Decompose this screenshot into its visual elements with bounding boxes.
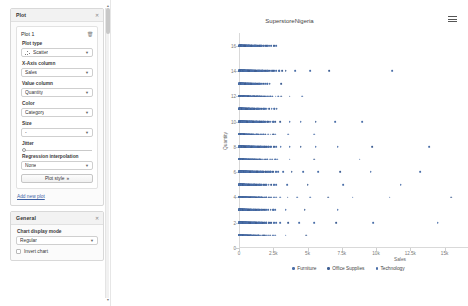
- value-column-select[interactable]: Quantity ▼: [21, 88, 93, 97]
- scatter-point[interactable]: [274, 121, 276, 123]
- scatter-point[interactable]: [337, 146, 339, 148]
- scatter-point[interactable]: [251, 184, 253, 186]
- scatter-point[interactable]: [314, 222, 316, 224]
- plot-panel-header[interactable]: Plot ✕: [11, 9, 103, 22]
- scatter-point[interactable]: [251, 171, 253, 173]
- scatter-point[interactable]: [244, 95, 246, 97]
- plot-canvas[interactable]: 02.5k5k7.5k10k12.5k15k17.5k20k22.5k02468…: [239, 33, 468, 248]
- scatter-point[interactable]: [270, 45, 272, 47]
- scatter-point[interactable]: [289, 121, 291, 123]
- scatter-point[interactable]: [261, 197, 263, 199]
- scatter-point[interactable]: [327, 197, 329, 199]
- scatter-point[interactable]: [280, 95, 282, 97]
- scatter-point[interactable]: [257, 171, 259, 173]
- sidebar-scrollbar[interactable]: ▲ ▼: [105, 8, 109, 298]
- scatter-point[interactable]: [287, 222, 289, 224]
- scatter-point[interactable]: [246, 146, 248, 148]
- scatter-point[interactable]: [270, 171, 272, 173]
- scatter-point[interactable]: [265, 222, 267, 224]
- scatter-point[interactable]: [275, 197, 277, 199]
- scatter-point[interactable]: [273, 197, 275, 199]
- scatter-point[interactable]: [253, 146, 255, 148]
- scatter-point[interactable]: [268, 108, 270, 110]
- size-select[interactable]: - ▼: [21, 128, 93, 137]
- scatter-point[interactable]: [291, 171, 293, 173]
- scatter-point[interactable]: [296, 197, 298, 199]
- scatter-point[interactable]: [243, 184, 245, 186]
- scatter-point[interactable]: [248, 184, 250, 186]
- scatter-point[interactable]: [263, 222, 265, 224]
- scatter-point[interactable]: [251, 197, 253, 199]
- scatter-point[interactable]: [275, 70, 277, 72]
- scatter-point[interactable]: [261, 146, 263, 148]
- scatter-point[interactable]: [256, 184, 258, 186]
- scatter-point[interactable]: [263, 146, 265, 148]
- scatter-point[interactable]: [246, 197, 248, 199]
- scatter-point[interactable]: [248, 146, 250, 148]
- jitter-slider-knob[interactable]: [22, 148, 26, 152]
- close-icon[interactable]: ✕: [95, 13, 99, 18]
- scatter-point[interactable]: [335, 222, 337, 224]
- scatter-point[interactable]: [251, 108, 253, 110]
- scatter-point[interactable]: [359, 159, 361, 161]
- scatter-point[interactable]: [263, 197, 265, 199]
- scatter-point[interactable]: [250, 70, 252, 72]
- scatter-point[interactable]: [372, 222, 374, 224]
- scatter-point[interactable]: [270, 146, 272, 148]
- scatter-point[interactable]: [352, 197, 354, 199]
- scatter-point[interactable]: [261, 70, 263, 72]
- close-icon[interactable]: ✕: [95, 216, 99, 221]
- scatter-point[interactable]: [243, 146, 245, 148]
- scatter-point[interactable]: [285, 70, 287, 72]
- scatter-point[interactable]: [280, 146, 282, 148]
- scatter-point[interactable]: [277, 95, 279, 97]
- scatter-point[interactable]: [251, 146, 253, 148]
- scatter-point[interactable]: [342, 184, 344, 186]
- scatter-point[interactable]: [286, 184, 288, 186]
- hamburger-menu-icon[interactable]: [448, 14, 458, 24]
- scatter-point[interactable]: [300, 121, 302, 123]
- scatter-point[interactable]: [268, 184, 270, 186]
- scatter-point[interactable]: [274, 133, 276, 135]
- scatter-point[interactable]: [300, 146, 302, 148]
- color-select[interactable]: Category ▼: [21, 108, 93, 117]
- scatter-point[interactable]: [256, 108, 258, 110]
- scatter-point[interactable]: [248, 222, 250, 224]
- scatter-point[interactable]: [269, 95, 271, 97]
- chart-display-mode-select[interactable]: Regular ▼: [16, 236, 98, 245]
- scatter-point[interactable]: [281, 83, 283, 85]
- scatter-point[interactable]: [451, 197, 453, 199]
- scatter-point[interactable]: [258, 70, 260, 72]
- scatter-point[interactable]: [315, 121, 317, 123]
- scatter-point[interactable]: [261, 108, 263, 110]
- scatter-point[interactable]: [272, 171, 274, 173]
- scatter-point[interactable]: [262, 171, 264, 173]
- scatter-point[interactable]: [261, 95, 263, 97]
- scatter-point[interactable]: [275, 171, 277, 173]
- scatter-point[interactable]: [248, 108, 250, 110]
- scatter-point[interactable]: [277, 159, 279, 161]
- scatter-point[interactable]: [285, 235, 287, 237]
- scatter-point[interactable]: [258, 146, 260, 148]
- scatter-point[interactable]: [270, 222, 272, 224]
- scatter-point[interactable]: [268, 146, 270, 148]
- scatter-point[interactable]: [309, 70, 311, 72]
- scatter-point[interactable]: [259, 171, 261, 173]
- scatter-point[interactable]: [258, 95, 260, 97]
- scatter-point[interactable]: [361, 121, 363, 123]
- scatter-point[interactable]: [258, 197, 260, 199]
- scatter-point[interactable]: [261, 184, 263, 186]
- scatter-point[interactable]: [392, 70, 394, 72]
- scatter-point[interactable]: [304, 209, 306, 211]
- scatter-point[interactable]: [261, 45, 263, 47]
- scatter-point[interactable]: [264, 95, 266, 97]
- scatter-point[interactable]: [294, 70, 296, 72]
- scatter-point[interactable]: [270, 70, 272, 72]
- scatter-point[interactable]: [268, 45, 270, 47]
- scatter-point[interactable]: [249, 159, 251, 161]
- scatter-point[interactable]: [249, 171, 251, 173]
- scatter-point[interactable]: [265, 146, 267, 148]
- scatter-point[interactable]: [251, 222, 253, 224]
- scatter-point[interactable]: [263, 45, 265, 47]
- scatter-point[interactable]: [256, 70, 258, 72]
